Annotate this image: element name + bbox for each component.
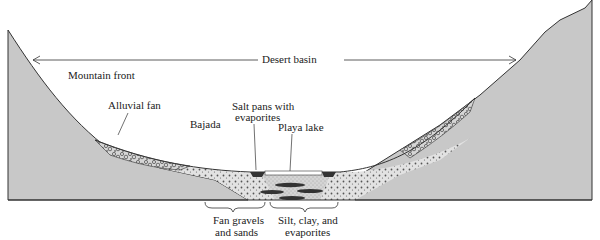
playa-lake [265, 171, 322, 175]
desert-basin-diagram: Desert basin Mountain front Alluvial fan… [0, 0, 600, 240]
mountain-front-label: Mountain front [68, 69, 135, 81]
fan-gravels-label-line2: and sands [215, 226, 258, 238]
playa-lake-label: Playa lake [278, 121, 324, 133]
evaporite-lens [279, 196, 305, 200]
playa-lake-leader [290, 134, 292, 171]
silt-brace [270, 202, 338, 212]
salt-pans-label-line2: evaporites [235, 111, 280, 123]
alluvial-fan-label: Alluvial fan [108, 99, 161, 111]
salt-pans-leader [254, 124, 256, 170]
evaporite-lens [297, 189, 323, 193]
desert-basin-label: Desert basin [262, 53, 317, 65]
evaporite-lens [275, 183, 305, 187]
bajada-label: Bajada [190, 118, 221, 130]
fan-gravels-label-line1: Fan gravels [213, 214, 264, 226]
silt-label-line1: Silt, clay, and [278, 214, 338, 226]
alluvial-fan-leader [118, 113, 128, 135]
evaporite-lens [260, 190, 284, 194]
fan-gravels-brace [205, 202, 265, 212]
silt-label-line2: evaporites [285, 226, 330, 238]
